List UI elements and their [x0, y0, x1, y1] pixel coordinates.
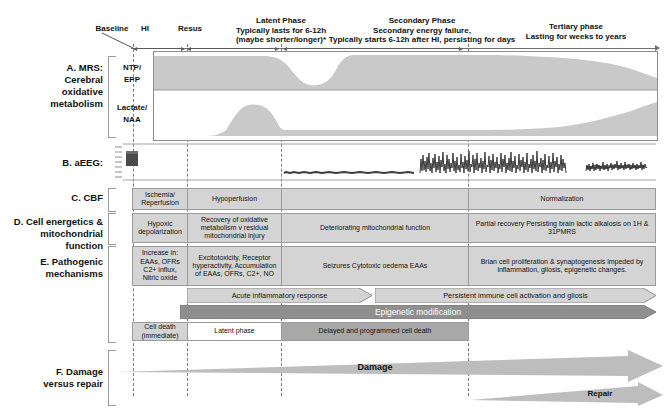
row-a-label-line1: A. MRS: — [6, 62, 103, 74]
ntp-epp-curve — [154, 55, 657, 90]
damage-wedge-text: Damage — [357, 362, 392, 372]
row-a-label-line4: metabolism — [6, 98, 103, 110]
repair-wedge-text: Repair — [588, 389, 613, 398]
pathogenic-cell-proliferation-text: Brian cell proliferation & synaptogenesi… — [471, 258, 653, 275]
aeeg-secondary-bursts — [420, 151, 566, 173]
row-c-label-line1: C. CBF — [6, 192, 103, 204]
repair-wedge-label: Repair — [570, 389, 630, 398]
row-c-label: C. CBF — [6, 192, 103, 204]
arrow-acute-inflammatory-response: Acute inflammatory response — [187, 288, 372, 303]
cbf-cell-secondary — [281, 188, 469, 210]
mrs-curves — [154, 52, 657, 140]
row-a-trace-label-lactate: Lactate/ NAA — [112, 102, 152, 126]
row-a-trace-label-ntp: NTP/ EPP — [117, 62, 147, 86]
row-f-label-line1: F. Damage — [6, 366, 103, 378]
cbf-cell-hypoperfusion-text: Hypoperfusion — [212, 195, 257, 203]
timeline-marker-hi-label: HI — [141, 24, 149, 33]
celldeath-cell-latent-text: Latent phase — [214, 327, 254, 335]
row-d-label: D. Cell energetics & mitochondrial funct… — [4, 216, 103, 252]
aeeg-axis-ticks — [115, 147, 122, 177]
aeeg-baseline-burst — [126, 153, 138, 166]
phase-tertiary-line2: Lasting for weeks to years — [496, 32, 656, 42]
celldeath-cell-immediate-text: Cell death (immediate) — [135, 323, 185, 340]
row-e-bracket — [108, 246, 116, 343]
arrow-epigenetic-modification: Epigenetic modification — [180, 305, 656, 319]
row-c-bracket — [108, 188, 116, 212]
energetics-cell-hypoxic-depolarization: Hypoxic depolarization — [132, 213, 188, 243]
figure-canvas: Baseline HI Resus Latent Phase Typically… — [0, 0, 667, 409]
row-f-label: F. Damage versus repair — [6, 366, 103, 390]
row-a-label-line2: Cerebral — [6, 74, 103, 86]
aeeg-panel — [114, 143, 656, 183]
pathogenic-cell-seizures: Seizures Cytotoxic oedema EAAs — [281, 246, 469, 286]
lactate-label-line1: Lactate/ — [112, 102, 152, 114]
aeeg-trace — [114, 143, 656, 183]
cbf-cell-normalization-text: Normalization — [541, 195, 584, 203]
energetics-cell-hypoxic-depolarization-text: Hypoxic depolarization — [135, 220, 185, 237]
pathogenic-cell-proliferation: Brian cell proliferation & synaptogenesi… — [468, 246, 656, 286]
lactate-naa-curve — [154, 102, 657, 136]
cbf-cell-ischemia-text: Ischemia/ Reperfusion — [135, 191, 185, 208]
arrow-persistent-immune-label: Persistent immune cell activation and gl… — [443, 291, 588, 300]
pathogenic-cell-increase: Increase in: EAAs, OFRs C2+ influx, Nitr… — [132, 246, 188, 286]
damage-wedge-label: Damage — [330, 362, 420, 372]
aeeg-tertiary-continuous — [586, 161, 647, 171]
row-f-label-line2: versus repair — [6, 378, 103, 390]
celldeath-cell-delayed: Delayed and programmed cell death — [281, 322, 469, 341]
interval-arrow-resus — [191, 48, 275, 49]
row-a-label: A. MRS: Cerebral oxidative metabolism — [6, 62, 103, 110]
pathogenic-cell-excitotoxicity: Excitotoxicity, Receptor hyperactivity, … — [187, 246, 282, 286]
cbf-cell-hypoperfusion: Hypoperfusion — [187, 188, 282, 210]
phase-tertiary-line1: Tertiary phase — [496, 22, 656, 32]
lactate-label-line2: NAA — [112, 114, 152, 126]
row-b-label-line1: B. aEEG: — [6, 157, 103, 169]
row-f-bracket — [108, 350, 116, 406]
row-d-label-line1: D. Cell energetics & — [4, 216, 103, 228]
phase-header-tertiary: Tertiary phase Lasting for weeks to year… — [496, 22, 656, 41]
celldeath-cell-immediate: Cell death (immediate) — [132, 322, 188, 341]
pathogenic-cell-seizures-text: Seizures Cytotoxic oedema EAAs — [323, 262, 428, 270]
arrow-persistent-immune: Persistent immune cell activation and gl… — [375, 288, 656, 303]
row-e-label-line1: E. Pathogenic — [4, 256, 103, 268]
aeeg-latent-suppressed — [284, 172, 414, 173]
arrow-epigenetic-label: Epigenetic modification — [375, 307, 461, 317]
row-d-label-line2: mitochondrial function — [4, 228, 103, 252]
repair-wedge-shape — [470, 382, 663, 406]
row-e-label-line2: mechanisms — [4, 268, 103, 280]
energetics-cell-partial-recovery-text: Partial recovery Persisting brain lactic… — [471, 220, 653, 237]
energetics-cell-deteriorating-text: Deteriorating mitochondrial function — [320, 224, 430, 232]
mrs-plot-panel — [153, 51, 658, 141]
row-e-label: E. Pathogenic mechanisms — [4, 256, 103, 280]
ntp-label-line1: NTP/ — [117, 62, 147, 74]
interval-arrow-hi — [137, 48, 181, 49]
energetics-cell-deteriorating: Deteriorating mitochondrial function — [281, 213, 469, 243]
pathogenic-cell-increase-text: Increase in: EAAs, OFRs C2+ influx, Nitr… — [135, 249, 185, 282]
cbf-cell-normalization: Normalization — [468, 188, 656, 210]
interval-arrow-latent — [287, 48, 459, 49]
ntp-label-line2: EPP — [117, 74, 147, 86]
row-a-label-line3: oxidative — [6, 86, 103, 98]
celldeath-cell-delayed-text: Delayed and programmed cell death — [319, 327, 432, 335]
cbf-cell-ischemia: Ischemia/ Reperfusion — [132, 188, 188, 210]
row-d-bracket — [108, 213, 116, 245]
pathogenic-cell-excitotoxicity-text: Excitotoxicity, Receptor hyperactivity, … — [190, 254, 279, 279]
row-b-label: B. aEEG: — [6, 157, 103, 169]
energetics-cell-recovery-text: Recovery of oxidative metabolism v resid… — [190, 216, 279, 241]
celldeath-cell-latent: Latent phase — [187, 322, 282, 341]
energetics-cell-partial-recovery: Partial recovery Persisting brain lactic… — [468, 213, 656, 243]
arrow-acute-inflammatory-label: Acute inflammatory response — [232, 291, 328, 300]
energetics-cell-recovery: Recovery of oxidative metabolism v resid… — [187, 213, 282, 243]
